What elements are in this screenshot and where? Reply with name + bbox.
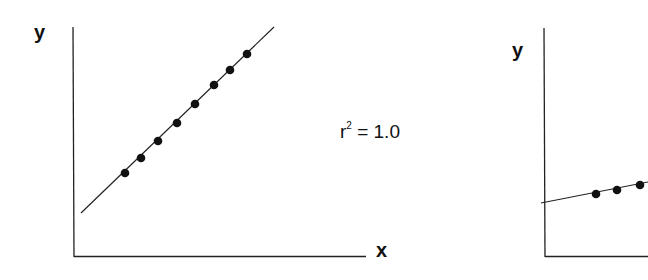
data-point — [154, 137, 163, 146]
right-y-axis-label: y — [512, 40, 523, 60]
r2-value: = 1.0 — [352, 121, 400, 142]
data-point — [191, 100, 200, 109]
data-point — [137, 154, 146, 163]
right-y-axis — [544, 28, 545, 257]
data-point — [636, 181, 645, 190]
data-point — [210, 81, 219, 90]
r2-superscript: 2 — [346, 120, 352, 131]
r-squared-annotation: r2 = 1.0 — [340, 122, 400, 141]
left-data-points — [121, 50, 252, 178]
left-y-axis-label: y — [34, 22, 45, 42]
data-point — [243, 50, 252, 59]
right-chart — [541, 28, 648, 257]
data-point — [121, 169, 130, 178]
left-chart — [73, 27, 366, 257]
data-point — [226, 66, 235, 75]
left-y-axis — [73, 27, 74, 257]
left-x-axis-label: x — [376, 240, 387, 260]
data-point — [613, 186, 622, 195]
data-point — [592, 190, 601, 199]
chart-canvas — [0, 0, 648, 280]
data-point — [173, 119, 182, 128]
right-data-points — [592, 181, 645, 199]
